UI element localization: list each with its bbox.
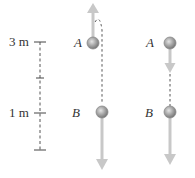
motion-diagram: 3 m 1 m A B A B <box>0 0 195 178</box>
point-label-b: B <box>145 105 153 120</box>
height-scale: 3 m 1 m <box>9 34 46 150</box>
velocity-arrow-down-icon <box>165 48 176 73</box>
ball-icon-a <box>164 37 176 49</box>
ball-icon-a <box>87 37 99 49</box>
trajectory-curve <box>95 19 102 104</box>
left-panel: A B <box>72 3 108 170</box>
point-label-b: B <box>72 105 80 120</box>
scale-label-1m: 1 m <box>9 105 29 120</box>
velocity-arrow-up-icon <box>87 3 99 38</box>
velocity-arrow-down-icon <box>96 117 108 170</box>
scale-label-3m: 3 m <box>9 34 29 49</box>
ball-icon-b <box>164 106 176 118</box>
ball-icon-b <box>96 106 108 118</box>
point-label-a: A <box>73 35 82 50</box>
velocity-arrow-down-icon <box>164 117 176 165</box>
right-panel: A B <box>145 35 176 165</box>
point-label-a: A <box>145 35 154 50</box>
